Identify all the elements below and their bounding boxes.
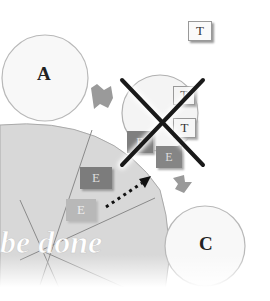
bottom-fade <box>0 255 270 301</box>
